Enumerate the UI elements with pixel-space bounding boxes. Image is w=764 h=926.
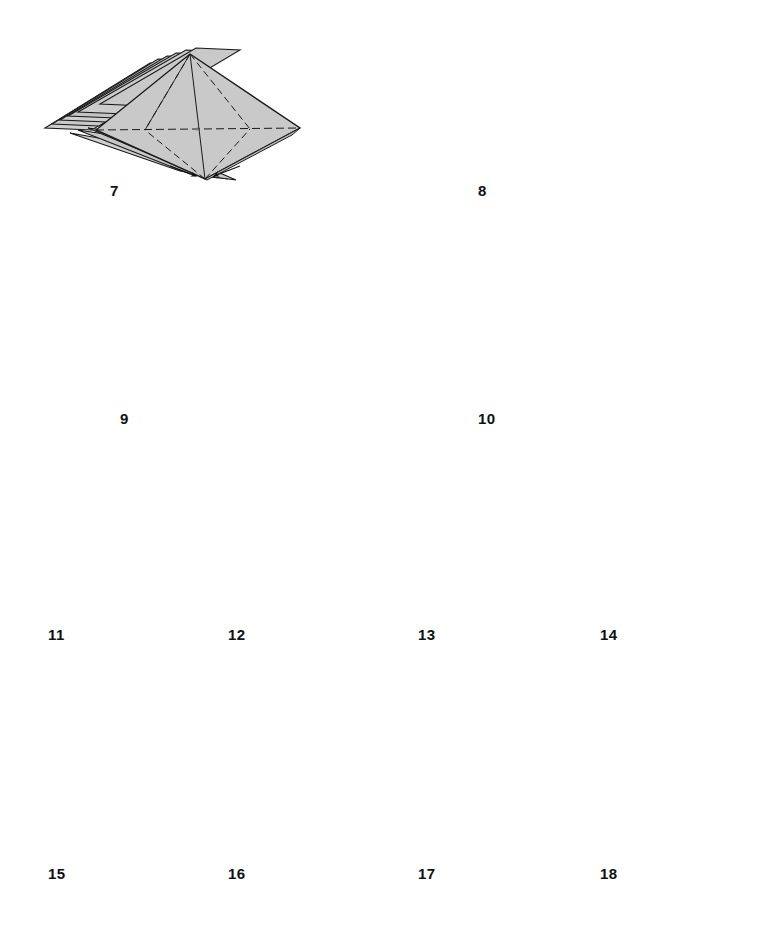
step-label-8: 8: [478, 183, 487, 198]
step-label-17: 17: [418, 866, 436, 881]
step-label-18: 18: [600, 866, 618, 881]
step-label-9: 9: [120, 411, 129, 426]
step-label-12: 12: [228, 627, 246, 642]
step-label-14: 14: [600, 627, 618, 642]
step-label-10: 10: [478, 411, 496, 426]
step-label-11: 11: [48, 627, 65, 642]
step-label-13: 13: [418, 627, 436, 642]
origami-diagram-sheet: [0, 0, 764, 926]
step-label-16: 16: [228, 866, 246, 881]
step-label-7: 7: [110, 183, 119, 198]
step-label-15: 15: [48, 866, 66, 881]
